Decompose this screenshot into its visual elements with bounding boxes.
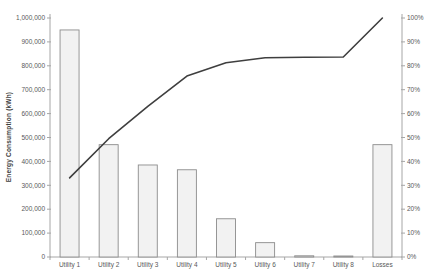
bar-utility-4	[177, 170, 196, 257]
right-tick-label: 80%	[407, 62, 420, 69]
bar-utility-3	[138, 165, 157, 257]
left-axis: 0100,000200,000300,000400,000500,000600,…	[16, 14, 51, 260]
right-tick-label: 30%	[407, 182, 420, 189]
chart-plot-area: 0100,000200,000300,000400,000500,000600,…	[0, 0, 434, 280]
category-label: Utility 5	[215, 261, 237, 269]
left-tick-label: 600,000	[22, 110, 46, 117]
right-tick-label: 20%	[407, 205, 420, 212]
pareto-chart: 0100,000200,000300,000400,000500,000600,…	[0, 0, 434, 280]
bar-utility-1	[60, 30, 79, 257]
bar-utility-6	[256, 243, 275, 257]
left-tick-label: 700,000	[22, 86, 46, 93]
right-tick-label: 60%	[407, 110, 420, 117]
left-tick-label: 800,000	[22, 62, 46, 69]
left-tick-label: 200,000	[22, 205, 46, 212]
bars-group	[60, 30, 392, 257]
x-axis: Utility 1Utility 2Utility 3Utility 4Util…	[50, 257, 402, 269]
left-tick-label: 300,000	[22, 182, 46, 189]
right-tick-label: 70%	[407, 86, 420, 93]
category-label: Utility 7	[294, 261, 316, 269]
bar-utility-7	[295, 256, 314, 257]
right-tick-label: 90%	[407, 38, 420, 45]
left-tick-label: 100,000	[22, 229, 46, 236]
right-tick-label: 0%	[407, 253, 417, 260]
category-label: Utility 3	[137, 261, 159, 269]
bar-utility-5	[217, 219, 236, 257]
bar-losses	[373, 145, 392, 257]
left-tick-label: 400,000	[22, 158, 46, 165]
bar-utility-8	[334, 256, 353, 257]
left-tick-label: 0	[41, 253, 45, 260]
category-label: Utility 6	[254, 261, 276, 269]
left-tick-label: 500,000	[22, 134, 46, 141]
category-label: Losses	[372, 261, 393, 268]
bar-utility-2	[99, 145, 118, 257]
right-tick-label: 100%	[407, 14, 424, 21]
category-label: Utility 1	[59, 261, 81, 269]
y-axis-title: Energy Consumption (kWh)	[5, 17, 15, 257]
category-label: Utility 8	[333, 261, 355, 269]
left-tick-label: 1,000,000	[16, 14, 45, 21]
category-label: Utility 4	[176, 261, 198, 269]
right-tick-label: 50%	[407, 134, 420, 141]
right-tick-label: 10%	[407, 229, 420, 236]
right-axis: 0%10%20%30%40%50%60%70%80%90%100%	[401, 14, 424, 260]
left-tick-label: 900,000	[22, 38, 46, 45]
right-tick-label: 40%	[407, 158, 420, 165]
category-label: Utility 2	[98, 261, 120, 269]
